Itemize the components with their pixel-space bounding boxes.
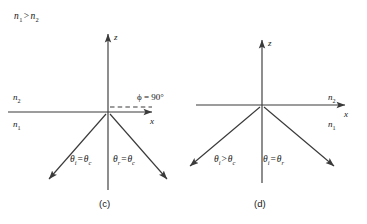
panel-d-reflected-subscript: r <box>281 159 284 166</box>
panel-d-upper-index-label: n2 <box>328 93 336 104</box>
panel-c-lines <box>8 34 167 190</box>
panel-d-caption: (d) <box>254 199 266 209</box>
panel-c-refraction-angle-label: ϕ = 90° <box>137 93 164 102</box>
panel-c-incident-ray <box>49 114 106 179</box>
panel-d-reflected-relation: = <box>269 154 276 164</box>
panel-d-n1-subscript: 1 <box>333 125 336 131</box>
panel-c-critical-subscript: c <box>88 159 91 166</box>
panel-d-incident-relation: > <box>220 154 227 164</box>
panel-d-incident-angle-label: θi>θc <box>214 155 235 166</box>
panel-d-z-axis-label: z <box>268 39 272 48</box>
condition-n2-subscript: 2 <box>36 16 40 23</box>
panel-d-n2-subscript: 2 <box>333 98 336 104</box>
optics-figure: n1>n2 n2 n1 z x ϕ = 90° θi=θc θr=θc (c) … <box>0 0 367 224</box>
panel-d-critical-subscript: c <box>232 159 235 166</box>
panel-c-caption: (c) <box>99 199 110 209</box>
panel-c-lower-index-label: n1 <box>13 120 21 131</box>
panel-c-z-axis-label: z <box>114 33 118 42</box>
panel-c-x-axis-label: x <box>150 117 154 126</box>
figure-line-art <box>0 0 367 224</box>
panel-c-n2-subscript: 2 <box>18 98 21 104</box>
panel-c-reflected-ray <box>110 114 167 179</box>
panel-c-reflected-angle-label: θr=θc <box>113 155 135 166</box>
panel-d-reflected-angle-label: θi=θr <box>263 155 284 166</box>
panel-c-incident-angle-label: θi=θc <box>70 155 91 166</box>
panel-c-upper-index-label: n2 <box>13 93 21 104</box>
panel-c-n1-subscript: 1 <box>18 125 21 131</box>
panel-d-x-axis-label: x <box>344 110 348 119</box>
panel-c-incident-relation: = <box>76 154 83 164</box>
panel-d-lower-index-label: n1 <box>328 120 336 131</box>
panel-c-reflected-critical-subscript: c <box>132 159 135 166</box>
condition-title: n1>n2 <box>14 12 39 23</box>
